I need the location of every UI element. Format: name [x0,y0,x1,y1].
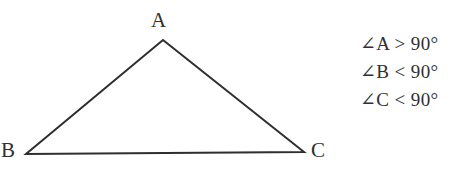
angle-b-statement: ∠B < 90° [360,58,472,86]
vertex-label-b: B [1,140,15,161]
vertex-label-a: A [151,10,166,31]
triangle-outline [26,40,304,154]
vertex-label-c: C [311,140,325,161]
angle-c-statement: ∠C < 90° [360,86,472,114]
triangle-figure: A B C [0,0,340,176]
angle-a-statement: ∠A > 90° [360,30,472,58]
angle-statements: ∠A > 90° ∠B < 90° ∠C < 90° [360,30,472,114]
triangle-shape [0,0,340,176]
diagram-canvas: A B C ∠A > 90° ∠B < 90° ∠C < 90° [0,0,475,176]
